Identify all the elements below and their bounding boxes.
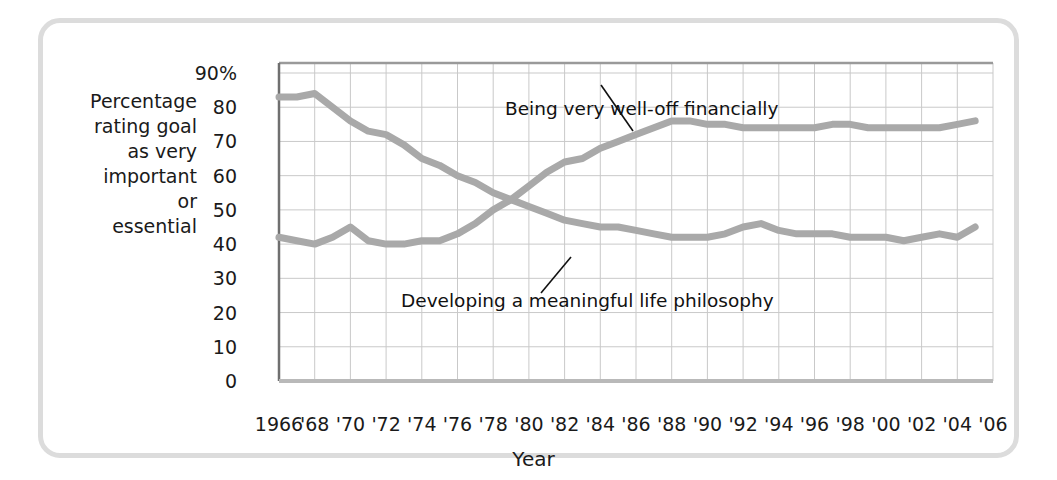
x-tick-label: '68 [300, 413, 329, 435]
x-tick-label: '98 [835, 413, 864, 435]
x-tick-label: '94 [764, 413, 793, 435]
y-tick-label: 30 [181, 269, 237, 288]
y-axis-tick-labels: 0102030405060708090% [175, 53, 237, 393]
x-tick-label: '82 [550, 413, 579, 435]
x-tick-label: '96 [800, 413, 829, 435]
x-tick-label: '86 [621, 413, 650, 435]
x-axis-tick-labels: 1966'68'70'72'74'76'78'80'82'84'86'88'90… [203, 413, 1057, 439]
y-tick-label: 40 [181, 235, 237, 254]
x-axis-title: Year [43, 447, 1024, 471]
x-tick-label: '00 [871, 413, 900, 435]
y-tick-label: 50 [181, 201, 237, 220]
x-tick-label: '70 [336, 413, 365, 435]
y-tick-label: 60 [181, 167, 237, 186]
x-tick-label: '90 [693, 413, 722, 435]
x-tick-label: '92 [728, 413, 757, 435]
y-tick-label: 20 [181, 304, 237, 323]
x-tick-label: '04 [943, 413, 972, 435]
x-tick-label: '74 [407, 413, 436, 435]
x-tick-label: '02 [907, 413, 936, 435]
chart-card: Percentage rating goal as very important… [38, 18, 1019, 458]
series-annotation-financial: Being very well-off financially [505, 99, 778, 119]
y-tick-label: 80 [181, 98, 237, 117]
y-tick-label: 70 [181, 132, 237, 151]
x-tick-label: '84 [586, 413, 615, 435]
x-tick-label: '80 [514, 413, 543, 435]
y-tick-label: 0 [181, 372, 237, 391]
x-tick-label: '72 [371, 413, 400, 435]
y-tick-label: 90% [181, 64, 237, 83]
x-tick-label: 1966 [255, 413, 303, 435]
y-tick-label: 10 [181, 338, 237, 357]
leader-line-philosophy [541, 257, 571, 293]
x-tick-label: '76 [443, 413, 472, 435]
x-tick-label: '88 [657, 413, 686, 435]
x-tick-label: '78 [478, 413, 507, 435]
series-annotation-philosophy: Developing a meaningful life philosophy [401, 291, 774, 311]
x-tick-label: '06 [978, 413, 1007, 435]
